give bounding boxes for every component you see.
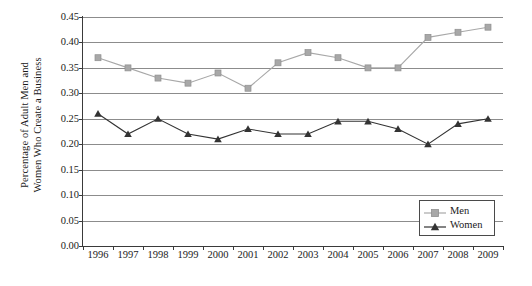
x-tick-label: 1998 (148, 250, 169, 261)
x-tick-label: 2002 (268, 250, 289, 261)
y-axis-tick-labels: 0.000.050.100.150.200.250.300.350.400.45 (48, 0, 79, 286)
legend-key-women-triangle-icon (423, 219, 447, 231)
data-point-square-marker (305, 50, 311, 56)
series-women (94, 110, 492, 147)
y-tick-label: 0.00 (48, 241, 79, 252)
data-point-square-marker (95, 55, 101, 61)
data-point-square-marker (215, 70, 221, 76)
data-point-square-marker (335, 55, 341, 61)
data-point-square-marker (155, 75, 161, 81)
data-point-triangle-marker (94, 110, 102, 117)
data-point-square-marker (275, 60, 281, 66)
legend-key-men-square-icon (423, 205, 447, 217)
legend-item-women: Women (423, 218, 490, 232)
data-point-square-marker (245, 85, 251, 91)
legend-item-men: Men (423, 204, 490, 218)
data-point-square-marker (365, 65, 371, 71)
legend-label-women: Women (450, 220, 482, 231)
y-tick-label: 0.10 (48, 190, 79, 201)
legend-label-men: Men (450, 206, 469, 217)
y-tick-label: 0.20 (48, 139, 79, 150)
line-chart: Percentage of Adult Men and Women Who Cr… (0, 0, 532, 286)
data-point-triangle-marker (244, 125, 252, 132)
data-point-triangle-marker (124, 130, 132, 137)
data-point-triangle-marker (484, 115, 492, 122)
x-tick-label: 1999 (178, 250, 199, 261)
y-tick-label: 0.25 (48, 114, 79, 125)
x-tick-label: 2005 (358, 250, 379, 261)
data-point-triangle-marker (424, 141, 432, 148)
x-axis-tick-labels: 1996199719981999200020012002200320042005… (83, 250, 503, 266)
data-point-triangle-marker (154, 115, 162, 122)
series-men (95, 24, 491, 91)
data-point-triangle-marker (184, 130, 192, 137)
y-axis-title: Percentage of Adult Men and Women Who Cr… (14, 0, 50, 250)
y-axis-title-line-1: Percentage of Adult Men and (19, 62, 32, 188)
x-tick-label: 2007 (418, 250, 439, 261)
data-point-square-marker (125, 65, 131, 71)
y-tick-label: 0.40 (48, 37, 79, 48)
y-tick-label: 0.30 (48, 88, 79, 99)
y-tick-label: 0.35 (48, 63, 79, 74)
y-tick-label: 0.05 (48, 215, 79, 226)
y-tick-label: 0.15 (48, 164, 79, 175)
x-tick-label: 2009 (478, 250, 499, 261)
x-tick-label: 2000 (208, 250, 229, 261)
y-tick-label: 0.45 (48, 12, 79, 23)
data-point-square-marker (185, 80, 191, 86)
x-tick-label: 2004 (328, 250, 349, 261)
x-tick-label: 2008 (448, 250, 469, 261)
data-point-square-marker (425, 34, 431, 40)
data-point-square-marker (455, 29, 461, 35)
x-tick-mark (503, 246, 504, 250)
x-tick-label: 1997 (118, 250, 139, 261)
y-axis-title-line-2: Women Who Create a Business (32, 57, 45, 192)
x-tick-label: 1996 (88, 250, 109, 261)
x-tick-label: 2006 (388, 250, 409, 261)
x-tick-label: 2003 (298, 250, 319, 261)
legend: Men Women (419, 200, 495, 236)
x-tick-label: 2001 (238, 250, 259, 261)
data-point-square-marker (485, 24, 491, 30)
data-point-square-marker (395, 65, 401, 71)
